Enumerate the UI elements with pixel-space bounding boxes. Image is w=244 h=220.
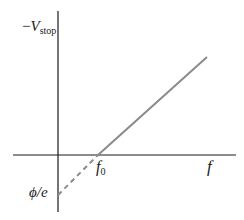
stopping-voltage-diagram: −Vstop f f0 ϕ/e bbox=[0, 0, 244, 220]
x-axis-label: f bbox=[207, 158, 212, 175]
y-axis-var: V bbox=[30, 18, 39, 34]
y-axis-label: −Vstop bbox=[22, 19, 56, 34]
work-function-intercept-label: ϕ/e bbox=[29, 185, 48, 200]
threshold-frequency-label: f0 bbox=[96, 159, 105, 175]
y-axis-subscript: stop bbox=[40, 25, 57, 36]
data-line-dashed-extrapolation bbox=[58, 155, 98, 195]
data-line-solid bbox=[98, 57, 207, 155]
threshold-subscript: 0 bbox=[100, 166, 105, 177]
